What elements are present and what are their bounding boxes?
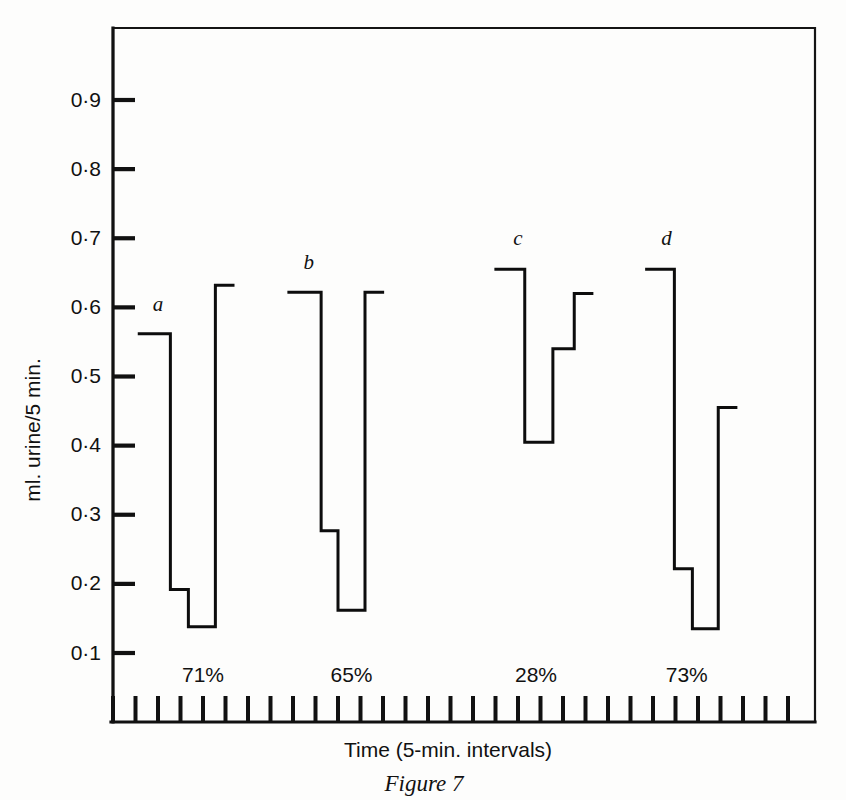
trace-label-d: d	[661, 226, 672, 250]
y-tick-label-1: 0·8	[71, 157, 101, 180]
y-axis-ticks	[113, 100, 135, 653]
trace-label-b: b	[304, 250, 315, 274]
percent-label-0: 71%	[182, 663, 224, 686]
x-axis-ticks	[113, 696, 788, 722]
y-tick-label-2: 0·7	[71, 226, 101, 249]
trace-d	[645, 269, 737, 628]
trace-label-c: c	[513, 226, 523, 250]
percent-label-2: 28%	[515, 663, 557, 686]
y-axis-tick-labels: 0·90·80·70·60·50·40·30·20·1	[71, 88, 102, 664]
y-tick-label-3: 0·6	[71, 295, 101, 318]
data-traces	[138, 269, 738, 628]
y-axis-title: ml. urine/5 min.	[21, 358, 44, 502]
percent-label-1: 65%	[330, 663, 372, 686]
y-tick-label-7: 0·2	[71, 571, 101, 594]
figure-caption: Figure 7	[384, 771, 465, 796]
y-tick-label-4: 0·5	[71, 364, 101, 387]
trace-a	[138, 285, 235, 626]
trace-labels: abcd	[153, 226, 673, 316]
chart-canvas: 0·90·80·70·60·50·40·30·20·1 abcd 71%65%2…	[0, 0, 846, 800]
trace-c	[494, 269, 593, 442]
plot-border	[113, 28, 815, 722]
percent-label-3: 73%	[666, 663, 708, 686]
y-tick-label-6: 0·3	[71, 502, 101, 525]
y-tick-label-0: 0·9	[71, 88, 101, 111]
x-axis-title: Time (5-min. intervals)	[344, 738, 552, 761]
percent-labels: 71%65%28%73%	[182, 663, 708, 686]
y-tick-label-8: 0·1	[71, 641, 101, 664]
figure-container: 0·90·80·70·60·50·40·30·20·1 abcd 71%65%2…	[0, 0, 846, 800]
trace-label-a: a	[153, 292, 164, 316]
y-tick-label-5: 0·4	[71, 433, 102, 456]
trace-b	[287, 292, 384, 610]
